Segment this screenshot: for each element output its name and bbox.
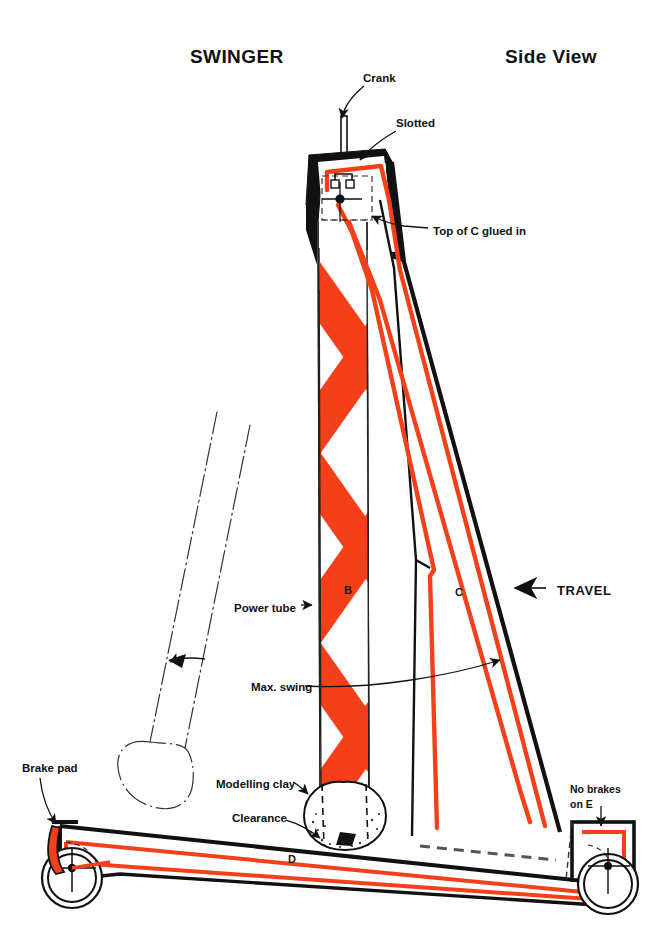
label-modelling-clay: Modelling clay <box>216 778 296 790</box>
swinger-side-view-diagram: SWINGER Side View <box>0 0 665 952</box>
max-swing-ghost-tube <box>150 412 250 748</box>
page-title-left: SWINGER <box>190 46 284 67</box>
label-clearance: Clearance <box>232 812 287 824</box>
crank-shaft <box>341 116 347 154</box>
part-letter-b: B <box>344 584 352 596</box>
max-swing-ghost-clay <box>118 741 194 808</box>
leader-brake-pad <box>40 778 56 824</box>
label-slotted: Slotted <box>396 117 435 129</box>
label-top-of-c: Top of C glued in <box>433 225 526 237</box>
page-title-right: Side View <box>505 46 597 67</box>
part-letter-c: C <box>455 586 463 598</box>
leader-modelling-clay <box>293 782 308 794</box>
modelling-clay-ball <box>304 782 386 850</box>
leader-crank <box>342 86 364 118</box>
diagram-page: SWINGER Side View <box>0 0 665 952</box>
label-max-swing: Max. swing <box>251 681 312 693</box>
label-crank: Crank <box>363 72 396 84</box>
label-brake-pad: Brake pad <box>22 762 78 774</box>
label-travel: TRAVEL <box>557 583 612 598</box>
diagonal-brace-c <box>380 162 560 836</box>
part-letter-d: D <box>288 853 296 865</box>
label-power-tube: Power tube <box>234 602 296 614</box>
label-no-brakes-line1: No brakes <box>570 783 621 795</box>
label-no-brakes-line2: on E <box>570 798 593 810</box>
max-swing-pointer <box>168 654 186 668</box>
power-tube-stripe-band <box>319 248 369 834</box>
